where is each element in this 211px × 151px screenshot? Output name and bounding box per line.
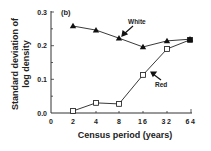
y-axis-title-line1: Standard deviation of xyxy=(10,17,20,110)
data-point-red xyxy=(188,37,193,42)
series-line-white xyxy=(73,26,190,47)
svg-text:4: 4 xyxy=(94,118,98,125)
chart: Standard deviation of log density 0.0 0.… xyxy=(0,0,211,151)
data-point-red xyxy=(71,109,76,114)
data-point-red xyxy=(165,47,170,52)
y-axis-title-line2: log density xyxy=(21,40,31,88)
series-line-red xyxy=(73,40,190,111)
arrow-red-icon xyxy=(151,72,161,80)
svg-text:0.1: 0.1 xyxy=(37,76,47,83)
arrow-white-icon xyxy=(122,26,133,36)
svg-text:8: 8 xyxy=(117,118,121,125)
svg-text:0: 0 xyxy=(49,118,53,125)
svg-text:16: 16 xyxy=(138,118,148,125)
svg-text:64: 64 xyxy=(186,118,197,125)
plot-area xyxy=(70,23,193,114)
svg-text:0.3: 0.3 xyxy=(37,9,47,16)
annotation-white: White xyxy=(128,18,146,25)
annotation-red: Red xyxy=(155,81,167,88)
data-point-red xyxy=(117,102,122,107)
y-tick-labels: 0.0 0.1 0.2 0.3 xyxy=(37,9,47,117)
panel-label: (b) xyxy=(61,8,71,17)
x-axis-title: Census period (years) xyxy=(78,130,173,140)
x-ticks xyxy=(73,109,191,113)
svg-text:0.2: 0.2 xyxy=(37,42,47,49)
data-point-red xyxy=(94,100,99,105)
data-point-white xyxy=(70,23,76,29)
data-point-red xyxy=(141,73,146,78)
svg-text:2: 2 xyxy=(71,118,75,125)
x-tick-labels: 0 2 4 8 16 32 64 xyxy=(49,118,196,125)
svg-text:0.0: 0.0 xyxy=(37,110,47,117)
svg-text:32: 32 xyxy=(162,118,173,125)
